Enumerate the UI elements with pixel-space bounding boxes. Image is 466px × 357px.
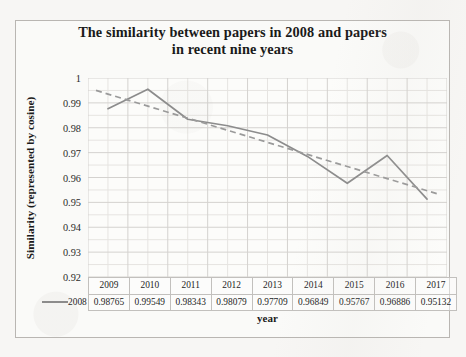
data-table-header-cell: 2011 — [170, 278, 211, 295]
y-tick-label: 0.94 — [63, 222, 81, 233]
data-table-value-cell: 0.95767 — [334, 294, 375, 311]
y-tick-label: 0.96 — [63, 172, 81, 183]
legend-label: 2008 — [40, 297, 87, 307]
y-axis-tick-labels: 10.990.980.970.960.950.940.930.92 — [44, 78, 84, 277]
data-table-corner-cell — [40, 278, 89, 295]
y-axis-title-text: Similarity (represented by cosine) — [24, 96, 36, 258]
data-table-value-row: 2008 0.987650.995490.983430.980790.97709… — [40, 294, 456, 311]
y-tick-label: 0.93 — [63, 247, 81, 258]
y-tick-label: 0.98 — [63, 122, 81, 133]
data-table-value-cell: 0.95132 — [416, 294, 457, 311]
data-table-value-cell: 0.96886 — [375, 294, 416, 311]
data-table-header-cell: 2012 — [211, 278, 252, 295]
chart-title-line-2: in recent nine years — [15, 41, 450, 58]
data-table-value-cell: 0.99549 — [129, 294, 170, 311]
data-table-value-cell: 0.98079 — [211, 294, 252, 311]
y-axis-title: Similarity (represented by cosine) — [22, 70, 38, 285]
chart-title: The similarity between papers in 2008 an… — [15, 24, 450, 58]
x-axis-title: year — [88, 312, 447, 324]
data-table-value-cell: 0.98343 — [170, 294, 211, 311]
legend-entry-2008: 2008 — [40, 294, 89, 311]
data-table-header-cell: 2010 — [129, 278, 170, 295]
chart-title-line-1: The similarity between papers in 2008 an… — [78, 24, 387, 40]
trendline-linear — [96, 90, 439, 194]
y-tick-label: 1 — [76, 73, 81, 84]
data-table-value-cell: 0.96849 — [293, 294, 334, 311]
series-line-2008 — [108, 89, 427, 199]
data-table-header-cell: 2009 — [89, 278, 130, 295]
data-table-header-cell: 2013 — [252, 278, 293, 295]
data-table-header-cell: 2017 — [416, 278, 457, 295]
chart-data-table: 200920102011201220132014201520162017 200… — [40, 277, 457, 311]
data-table-header-row: 200920102011201220132014201520162017 — [40, 278, 456, 295]
series-lines — [88, 78, 447, 277]
data-table-header-cell: 2014 — [293, 278, 334, 295]
data-table-value-cell: 0.98765 — [89, 294, 130, 311]
y-tick-label: 0.95 — [63, 197, 81, 208]
data-table-header-cell: 2016 — [375, 278, 416, 295]
data-table-header-cell: 2015 — [334, 278, 375, 295]
plot-area-wrapper — [88, 78, 447, 277]
data-table-value-cell: 0.97709 — [252, 294, 293, 311]
y-tick-label: 0.99 — [63, 97, 81, 108]
y-tick-label: 0.97 — [63, 147, 81, 158]
